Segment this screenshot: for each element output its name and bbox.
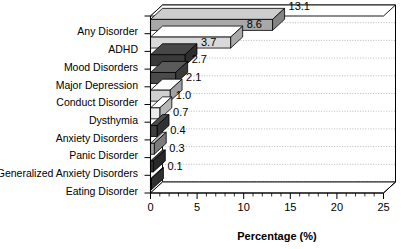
y-tick-label: Mood Disorders [64,61,138,73]
chart-container: Any DisorderADHDMood DisordersMajor Depr… [0,0,414,249]
value-label: 1.0 [176,89,191,101]
x-tick-label: 10 [238,201,250,213]
x-tick-label: 5 [194,201,200,213]
x-axis-tick-labels: 0510152025 [147,201,389,213]
bar-chart: Any DisorderADHDMood DisordersMajor Depr… [0,0,414,249]
value-label: 0.7 [173,106,188,118]
x-tick-label: 25 [377,201,389,213]
x-tick-label: 0 [147,201,153,213]
value-label: 0.3 [169,142,184,154]
y-tick-label: Conduct Disorder [56,96,138,108]
y-tick-label: Anxiety Disorders [56,132,138,144]
value-label: 0.1 [167,160,182,172]
x-tick-label: 15 [284,201,296,213]
value-label: 2.1 [186,71,201,83]
value-label: 3.7 [201,36,216,48]
value-label: 2.7 [192,53,207,65]
y-tick-label: ADHD [108,43,138,55]
x-axis-title: Percentage (%) [237,230,317,242]
value-label: 8.6 [247,18,262,30]
y-axis-labels: Any DisorderADHDMood DisordersMajor Depr… [0,25,139,196]
value-label: 0.4 [170,124,185,136]
y-tick-label: Major Depression [56,79,138,91]
y-tick-label: Any Disorder [77,25,138,37]
y-tick-label: Panic Disorder [69,149,138,161]
y-tick-label: Generalized Anxiety Disorders [0,167,138,179]
value-label: 13.1 [289,0,310,12]
y-tick-label: Eating Disorder [66,185,139,197]
y-tick-label: Dysthymia [89,114,138,126]
x-tick-label: 20 [331,201,343,213]
